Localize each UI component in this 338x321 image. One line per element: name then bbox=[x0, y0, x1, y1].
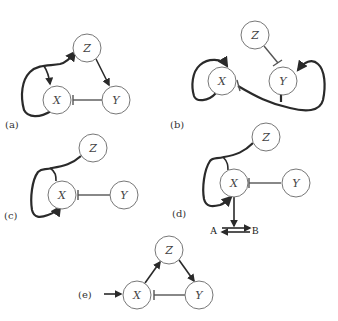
panel-label-a: (a) bbox=[5, 119, 19, 130]
svg-text:Z: Z bbox=[261, 131, 270, 144]
panel-b: Z X Y (b) bbox=[170, 21, 325, 130]
panel-label-b: (b) bbox=[170, 119, 184, 130]
svg-text:Z: Z bbox=[164, 244, 173, 257]
node-y: Y bbox=[102, 86, 130, 114]
panel-d: Z X Y A B (d) bbox=[172, 123, 310, 236]
node-z: Z bbox=[155, 236, 183, 264]
panel-label-c: (c) bbox=[4, 210, 18, 221]
species-b: B bbox=[252, 225, 259, 236]
node-z: Z bbox=[73, 34, 101, 62]
node-x: X bbox=[43, 86, 71, 114]
node-y: Y bbox=[185, 281, 213, 309]
node-x: X bbox=[48, 181, 76, 209]
edge-z-to-y bbox=[96, 59, 109, 85]
species-a: A bbox=[210, 225, 218, 236]
svg-text:X: X bbox=[52, 94, 62, 107]
svg-text:X: X bbox=[132, 289, 142, 302]
node-x: X bbox=[208, 67, 236, 95]
inhibition-bar bbox=[237, 80, 240, 91]
svg-text:X: X bbox=[217, 75, 227, 88]
edge-loop-to-x bbox=[223, 157, 228, 170]
network-motif-diagram: Z X Y (a) Z X Y (b) Z X Y (c) bbox=[0, 0, 338, 321]
node-z: Z bbox=[252, 123, 280, 151]
panel-label-d: (d) bbox=[172, 208, 186, 219]
panel-a: Z X Y (a) bbox=[5, 34, 130, 130]
svg-text:Z: Z bbox=[82, 42, 91, 55]
node-y: Y bbox=[282, 169, 310, 197]
panel-e: Z X Y (e) bbox=[78, 236, 213, 309]
inhibition-bar bbox=[273, 60, 282, 66]
node-x: X bbox=[220, 169, 248, 197]
node-z: Z bbox=[79, 134, 107, 162]
svg-text:X: X bbox=[229, 177, 239, 190]
node-y: Y bbox=[110, 181, 138, 209]
svg-text:X: X bbox=[57, 189, 67, 202]
node-x: X bbox=[123, 281, 151, 309]
node-z: Z bbox=[241, 21, 269, 49]
edge-loop-to-x bbox=[44, 66, 50, 84]
edge-z-to-y bbox=[179, 260, 194, 281]
panel-label-e: (e) bbox=[78, 289, 92, 300]
svg-text:Z: Z bbox=[250, 29, 259, 42]
node-y: Y bbox=[269, 67, 297, 95]
svg-text:Z: Z bbox=[88, 142, 97, 155]
edge-x-to-z bbox=[145, 262, 160, 283]
edge-z-inhibits-y bbox=[264, 46, 278, 63]
edge-loop-to-x bbox=[50, 168, 56, 181]
panel-c: Z X Y (c) bbox=[4, 134, 138, 221]
